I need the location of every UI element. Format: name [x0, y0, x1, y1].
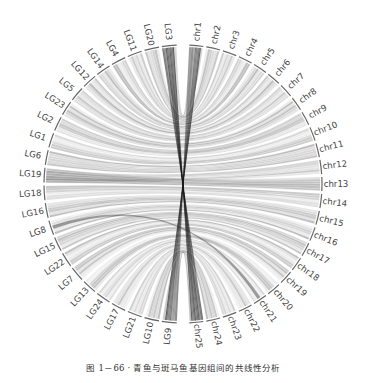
- chromosome-label-LG16: LG16: [21, 206, 45, 220]
- chromosome-label-chr3: chr3: [226, 29, 242, 50]
- synteny-ribbons: [46, 47, 320, 321]
- chromosome-label-LG13: LG13: [68, 285, 90, 308]
- chromosome-label-LG12: LG12: [69, 59, 91, 82]
- chromosome-label-LG4: LG4: [104, 38, 121, 58]
- chromosome-arc-LG18: [44, 185, 45, 200]
- chromosome-label-chr6: chr6: [272, 57, 292, 78]
- chromosome-label-LG1: LG1: [28, 128, 47, 143]
- figure-caption: 图 1－66 · 青鱼与斑马鱼基因组间的共线性分析: [0, 361, 367, 373]
- chromosome-label-chr17: chr17: [305, 246, 331, 266]
- chromosome-label-chr5: chr5: [258, 46, 277, 68]
- chromosome-label-LG2: LG2: [36, 109, 56, 125]
- chromosome-label-chr25: chr25: [192, 323, 204, 348]
- chromosome-label-chr10: chr10: [312, 119, 339, 137]
- chromosome-label-chr13: chr13: [324, 179, 349, 189]
- chromosome-label-chr22: chr22: [242, 307, 262, 334]
- chromosome-label-chr9: chr9: [307, 102, 329, 120]
- chromosome-label-LG7: LG7: [56, 273, 75, 292]
- chromosome-label-chr2: chr2: [209, 24, 223, 45]
- chromosome-arc-LG20: [145, 47, 159, 50]
- chromosome-label-chr1: chr1: [191, 22, 203, 42]
- chromosome-label-LG21: LG21: [121, 315, 138, 339]
- chromosome-label-chr7: chr7: [285, 71, 306, 91]
- chromosome-label-LG18: LG18: [19, 188, 42, 199]
- chromosome-label-chr8: chr8: [297, 86, 318, 105]
- chromosome-label-chr18: chr18: [295, 261, 321, 283]
- chromosome-arc-LG3: [162, 45, 177, 46]
- chromosome-label-chr15: chr15: [318, 213, 344, 229]
- chromosome-label-chr16: chr16: [313, 230, 340, 248]
- chromosome-label-LG11: LG11: [122, 28, 139, 52]
- chromosome-label-LG15: LG15: [33, 240, 58, 259]
- chromosome-label-LG17: LG17: [102, 307, 121, 331]
- chromosome-label-chr14: chr14: [322, 196, 348, 209]
- chromosome-label-chr12: chr12: [322, 158, 348, 171]
- chromosome-label-chr4: chr4: [242, 36, 260, 58]
- chromosome-label-LG9: LG9: [162, 327, 174, 345]
- chromosome-label-chr24: chr24: [209, 320, 224, 346]
- chromosome-label-LG8: LG8: [28, 224, 47, 239]
- chromosome-arc-LG19: [44, 168, 45, 183]
- chromosome-label-chr23: chr23: [226, 315, 244, 342]
- chromosome-arc-chr14: [320, 194, 322, 208]
- chromosome-label-LG6: LG6: [24, 148, 43, 161]
- chromosome-arc-LG9: [162, 321, 177, 322]
- chromosome-label-LG14: LG14: [85, 46, 106, 70]
- chromosome-label-chr20: chr20: [271, 287, 295, 312]
- chromosome-label-chr21: chr21: [257, 298, 279, 324]
- chromosome-label-LG5: LG5: [57, 75, 76, 94]
- chromosome-label-LG23: LG23: [43, 90, 67, 111]
- synteny-circos-plot: chr1chr2chr3chr4chr5chr6chr7chr8chr9chr1…: [0, 0, 367, 360]
- chromosome-label-chr11: chr11: [318, 138, 344, 154]
- chromosome-label-chr19: chr19: [284, 274, 309, 298]
- chromosome-label-LG24: LG24: [84, 297, 105, 321]
- chromosome-label-LG10: LG10: [141, 321, 156, 345]
- chromosome-label-LG19: LG19: [19, 168, 42, 179]
- chromosome-arc-chr1: [189, 45, 203, 46]
- chromosome-label-LG20: LG20: [142, 23, 157, 47]
- chromosome-label-LG22: LG22: [42, 257, 66, 278]
- chromosome-label-LG3: LG3: [163, 23, 175, 41]
